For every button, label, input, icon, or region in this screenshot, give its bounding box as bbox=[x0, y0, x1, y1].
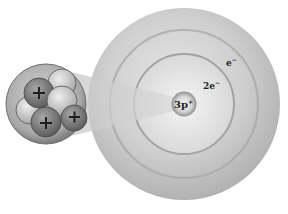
outer-shell-label-sup: − bbox=[232, 56, 237, 63]
nucleus-label-base: 3p bbox=[174, 99, 188, 110]
outer-shell-label: e− bbox=[226, 57, 237, 68]
inner-shell-label: 2e− bbox=[203, 80, 220, 91]
nucleus-label: 3p+ bbox=[174, 99, 193, 110]
nucleus-inset bbox=[6, 64, 87, 144]
atom-graphic bbox=[0, 0, 288, 214]
inner-shell-label-base: 2e bbox=[203, 81, 215, 91]
inner-shell-label-sup: − bbox=[215, 79, 220, 86]
lithium-atom-diagram: 3p+ 2e− e− bbox=[0, 0, 288, 214]
nucleus-label-sup: + bbox=[188, 98, 193, 105]
